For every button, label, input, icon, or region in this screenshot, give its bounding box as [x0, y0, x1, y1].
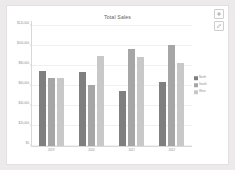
y-tick-label: $40,000 — [19, 102, 29, 105]
add-button[interactable] — [214, 9, 224, 19]
y-tick-label: $20,000 — [19, 122, 29, 125]
y-tick-mark — [30, 125, 32, 126]
bar[interactable] — [137, 57, 144, 146]
edit-button[interactable] — [214, 21, 224, 31]
x-tick-label: 2019 — [48, 149, 54, 152]
plus-icon — [216, 11, 222, 17]
legend-swatch — [194, 76, 198, 80]
x-tick-label: 2020 — [88, 149, 94, 152]
chart-controls — [214, 9, 225, 31]
y-tick-label: $120,000 — [17, 22, 29, 25]
y-tick-mark — [30, 25, 32, 26]
y-tick-label: $60,000 — [19, 82, 29, 85]
y-tick-label: $80,000 — [19, 62, 29, 65]
chart-card: Total Sales 2019202020212022 $0$20,000$4… — [6, 5, 229, 165]
bar[interactable] — [39, 71, 46, 146]
y-tick-mark — [30, 145, 32, 146]
bar[interactable] — [79, 72, 86, 146]
legend-label: North — [199, 77, 206, 80]
y-tick-mark — [30, 65, 32, 66]
x-tick-label: 2022 — [169, 149, 175, 152]
y-tick-label: $100,000 — [17, 42, 29, 45]
bar-group: 2020 — [79, 21, 104, 146]
bar[interactable] — [97, 56, 104, 146]
chart-title: Total Sales — [7, 14, 228, 20]
y-tick-mark — [30, 45, 32, 46]
bar-group: 2021 — [119, 21, 144, 146]
bar-groups: 2019202020212022 — [31, 21, 192, 146]
bar[interactable] — [159, 82, 166, 146]
chart-legend: NorthSouthWest — [194, 76, 225, 94]
legend-item[interactable]: North — [194, 76, 225, 80]
y-tick-mark — [30, 105, 32, 106]
legend-label: South — [199, 84, 207, 87]
bar-group: 2019 — [39, 21, 64, 146]
x-tick-label: 2021 — [128, 149, 134, 152]
plot-area: 2019202020212022 $0$20,000$40,000$60,000… — [31, 21, 192, 146]
legend-item[interactable]: West — [194, 90, 225, 94]
bar[interactable] — [177, 63, 184, 146]
y-tick-mark — [30, 85, 32, 86]
pencil-icon — [216, 23, 222, 29]
legend-swatch — [194, 83, 198, 87]
bar[interactable] — [48, 78, 55, 146]
legend-swatch — [194, 90, 198, 94]
bar[interactable] — [57, 78, 64, 147]
legend-item[interactable]: South — [194, 83, 225, 87]
bar[interactable] — [88, 85, 95, 146]
bar[interactable] — [168, 45, 175, 146]
bar[interactable] — [128, 49, 135, 146]
y-tick-label: $0 — [26, 142, 29, 145]
bar[interactable] — [119, 91, 126, 146]
legend-label: West — [199, 91, 206, 94]
bar-group: 2022 — [159, 21, 184, 146]
